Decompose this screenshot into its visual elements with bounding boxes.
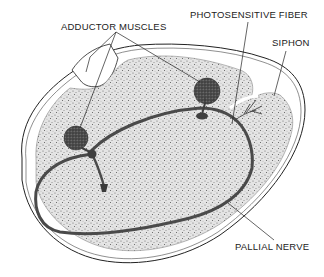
label-pallial-nerve: PALLIAL NERVE xyxy=(235,242,309,252)
posterior-ganglion xyxy=(196,113,208,120)
label-adductor-muscles: ADDUCTOR MUSCLES xyxy=(61,22,166,32)
anterior-adductor-muscle xyxy=(64,126,88,150)
label-photosensitive-fiber: PHOTOSENSITIVE FIBER xyxy=(190,10,308,20)
diagram-canvas: ADDUCTOR MUSCLES PHOTOSENSITIVE FIBER SI… xyxy=(0,0,324,277)
posterior-adductor-muscle xyxy=(194,78,220,104)
label-siphon: SIPHON xyxy=(272,38,310,48)
